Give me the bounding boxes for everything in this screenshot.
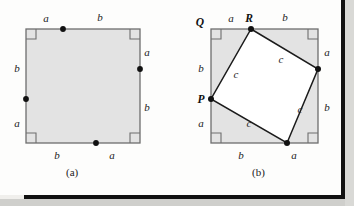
panel-a-caption: (a) xyxy=(66,166,78,178)
panel-b-label-top-right: b xyxy=(282,11,288,23)
panel-b-vertex-right-dot xyxy=(315,66,321,72)
panel-b-label-top-left: a xyxy=(228,12,234,24)
panel-b-label-left-lower: a xyxy=(198,117,204,129)
panel-b-vertex-label-Q: Q xyxy=(196,16,204,28)
page-shadow-right xyxy=(345,0,354,206)
panel-b-label-c-right-bottom: c xyxy=(298,103,303,115)
panel-b-vertex-R-dot xyxy=(248,26,254,32)
figure-page: a b a b b a b a a b a b b a b a c c xyxy=(0,0,354,206)
panel-b-label-left-upper: b xyxy=(198,62,204,74)
panel-b-label-c-top-right: c xyxy=(279,53,284,65)
panel-b-label-bottom-right: a xyxy=(291,149,297,161)
panel-b-vertex-label-R: R xyxy=(244,12,253,24)
panel-b-caption: (b) xyxy=(252,166,265,178)
panel-b-label-right-upper: a xyxy=(324,46,330,58)
panel-b-label-c-bottom-left: c xyxy=(247,117,252,129)
panel-b-diagram: a b a b b a b a c c c c Q R P xyxy=(0,0,354,206)
panel-b-label-bottom-left: b xyxy=(238,149,244,161)
panel-b-vertex-bottom-dot xyxy=(284,140,290,146)
panel-b-label-right-lower: b xyxy=(324,101,330,113)
panel-b-vertex-P-dot xyxy=(208,96,214,102)
page-shadow-bottom xyxy=(0,199,354,206)
panel-b-vertex-label-P: P xyxy=(197,93,205,105)
panel-b-label-c-left-top: c xyxy=(234,68,239,80)
